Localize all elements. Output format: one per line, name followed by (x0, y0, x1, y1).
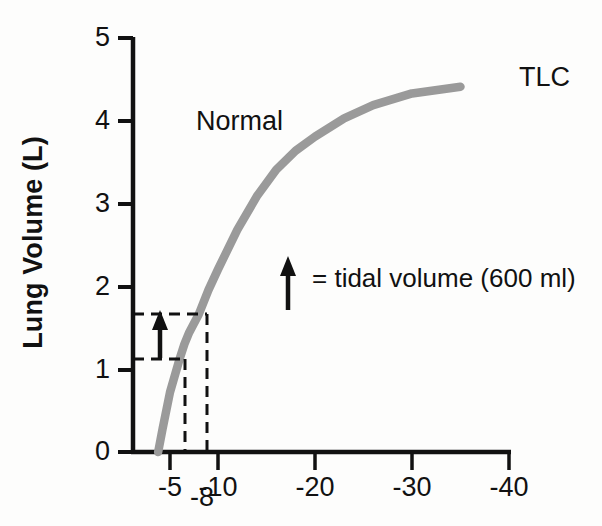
y-tick-label-0: 0 (76, 438, 110, 465)
y-axis-title: Lung Volume (L) (18, 93, 49, 393)
legend-label: = tidal volume (600 ml) (312, 265, 576, 291)
x-tick-label-minus8: -8 (165, 484, 239, 511)
x-tick-label-minus30: -30 (375, 474, 449, 501)
x-axis (131, 452, 511, 470)
curve-label-tlc: TLC (519, 64, 570, 91)
x-tick-label-minus20: -20 (278, 474, 352, 501)
tidal-volume-arrow-icon (152, 310, 168, 358)
x-tick-label-minus40: -40 (472, 474, 546, 501)
y-tick-label-4: 4 (76, 107, 110, 134)
lung-compliance-chart: 5 4 3 2 1 0 -5 -10 -20 -30 -40 -8 Lung V… (0, 0, 602, 526)
y-axis (118, 37, 133, 453)
curve-label-normal: Normal (196, 108, 283, 135)
y-tick-label-2: 2 (76, 273, 110, 300)
legend-arrow-icon (280, 256, 296, 310)
y-tick-label-1: 1 (76, 356, 110, 383)
y-tick-label-5: 5 (76, 24, 110, 51)
y-tick-label-3: 3 (76, 190, 110, 217)
